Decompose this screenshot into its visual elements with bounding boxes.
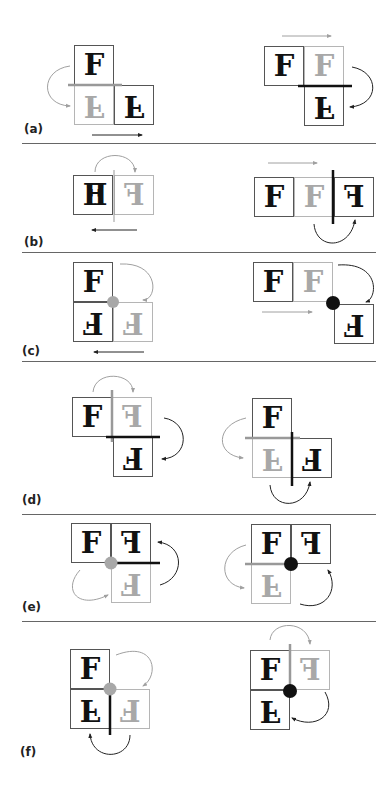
cell-f-right-reflected-ghost: F	[290, 650, 330, 690]
letter-f: F	[261, 570, 282, 599]
letter-f: F	[302, 444, 323, 473]
letter-f: F	[262, 444, 283, 473]
cell-c-left-rotated-ghost: F	[113, 302, 153, 342]
letter-f: F	[83, 308, 104, 337]
panel-label-c: (c)	[22, 344, 40, 358]
cell-d-left-reflected-ghost: F	[112, 397, 152, 437]
letter-f: F	[300, 656, 321, 685]
cell-f-left-original: F	[70, 649, 110, 689]
cell-f-left-result: F	[70, 689, 110, 729]
cell-f-left-rotated-ghost: F	[110, 689, 150, 729]
letter-f: F	[122, 403, 143, 432]
letter-f: F	[261, 530, 282, 559]
cell-d-left-result: F	[113, 437, 153, 477]
letter-f: F	[260, 656, 281, 685]
cell-a-left-glide-result: F	[114, 85, 154, 125]
reflect-arrow-gray	[95, 156, 135, 173]
letter-f: F	[80, 695, 101, 724]
cell-a-left-reflected-ghost: F	[74, 85, 114, 125]
divider-a-b	[22, 143, 376, 144]
cell-d-right-reflected-ghost: F	[252, 438, 292, 478]
rotate-arrow-gray	[72, 570, 108, 600]
reflect-arrow-gray	[270, 625, 310, 644]
letter-f: F	[82, 403, 103, 432]
reflect-arrow-gray	[93, 376, 133, 392]
reflect-arrow-black	[162, 418, 183, 459]
letter-f: F	[263, 268, 284, 297]
reflect-arrow-black	[90, 734, 130, 754]
cell-d-right-original: F	[252, 398, 292, 438]
cell-f-right-result: F	[250, 690, 290, 730]
panel-label-b: (b)	[24, 235, 44, 249]
cell-b-left-reflected-ghost: F	[114, 175, 154, 215]
letter-f: F	[314, 92, 335, 121]
letter-f: F	[301, 530, 322, 559]
divider-b-c	[22, 252, 376, 253]
letter-f: F	[303, 268, 324, 297]
reflect-arrow-gray	[225, 545, 246, 588]
reflect-arrow-black	[158, 542, 179, 585]
letter-f: F	[121, 569, 142, 598]
cell-c-right-original: F	[253, 262, 293, 302]
panel-label-f: (f)	[20, 745, 36, 759]
cell-b-left-combined: FF	[73, 175, 113, 215]
letter-f: F	[83, 268, 104, 297]
letter-f: F	[120, 695, 141, 724]
divider-e-f	[22, 621, 376, 622]
cell-a-right-original: F	[264, 46, 304, 86]
rotate-arrow-black	[292, 692, 329, 722]
cell-d-right-result: F	[292, 438, 332, 478]
letter-f: F	[344, 310, 365, 339]
cell-e-right-reflected-ghost: F	[251, 564, 291, 604]
cell-c-left-original: F	[73, 262, 113, 302]
cell-b-right-translated-ghost: F	[294, 177, 334, 217]
cell-c-left-rotated-result: F	[73, 302, 113, 342]
rotate-arrow-gray	[116, 651, 152, 686]
cell-d-left-original: F	[72, 397, 112, 437]
cell-e-right-result: F	[291, 524, 331, 564]
letter-f: F	[274, 52, 295, 81]
cell-f-right-original: F	[250, 650, 290, 690]
letter-f: F	[84, 51, 105, 80]
letter-f: F	[124, 91, 145, 120]
cell-a-left-original: F	[74, 45, 114, 85]
letter-f: F	[81, 529, 102, 558]
letter-f: F	[262, 404, 283, 433]
letter-f-overlaid: FF	[83, 181, 104, 210]
divider-d-e	[22, 514, 376, 515]
cell-a-right-glide-result: F	[304, 86, 344, 126]
cell-e-left-original: F	[71, 523, 111, 563]
letter-f-mirrored: F	[87, 181, 108, 210]
letter-f: F	[264, 183, 285, 212]
cell-b-right-original: F	[254, 177, 294, 217]
panel-label-e: (e)	[22, 600, 41, 614]
letter-f: F	[123, 443, 144, 472]
cell-e-right-original: F	[251, 524, 291, 564]
divider-c-d	[22, 361, 376, 362]
letter-f: F	[80, 655, 101, 684]
cell-c-right-rotated-result: F	[334, 304, 374, 344]
symmetry-figure: (a) (b) (c) (d) (e) (f) F F F F F F FF F…	[0, 0, 391, 798]
reflect-arrow-black	[314, 220, 355, 243]
panel-label-d: (d)	[22, 493, 42, 507]
cell-a-right-translated-ghost: F	[304, 46, 344, 86]
letter-f: F	[314, 52, 335, 81]
cell-c-right-translated-ghost: F	[293, 262, 333, 302]
cell-b-right-reflected-result: F	[334, 177, 374, 217]
reflect-arrow-black	[270, 482, 310, 503]
rotate-arrow-gray	[120, 264, 153, 300]
letter-f: F	[260, 696, 281, 725]
panel-label-a: (a)	[24, 122, 43, 136]
rotate-arrow-black	[300, 570, 332, 606]
letter-f: F	[123, 308, 144, 337]
letter-f: F	[304, 183, 325, 212]
reflect-arrow-gray	[222, 418, 246, 458]
letter-f: F	[344, 183, 365, 212]
cell-e-left-result: F	[111, 523, 151, 563]
letter-f: F	[124, 181, 145, 210]
cell-e-left-rotated-ghost: F	[111, 563, 151, 603]
reflect-arrow-gray	[48, 66, 71, 106]
rotate-arrow-black	[338, 265, 373, 302]
reflect-arrow-black	[350, 67, 373, 107]
letter-f: F	[84, 91, 105, 120]
